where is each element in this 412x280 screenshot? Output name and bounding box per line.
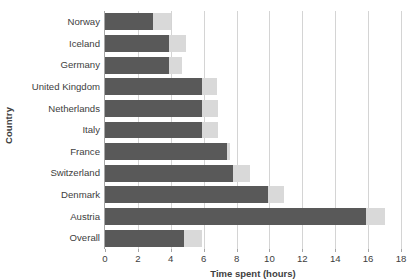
x-tick-mark-18 [401, 249, 402, 252]
category-label-denmark: Denmark [61, 184, 100, 206]
x-tick-label-14: 14 [320, 253, 350, 264]
x-tick-label-12: 12 [287, 253, 317, 264]
bar-row: Denmark [105, 184, 401, 206]
bar-segment-light[interactable] [268, 186, 284, 203]
bar-segment-dark[interactable] [105, 143, 227, 160]
x-tick-label-18: 18 [386, 253, 412, 264]
bar-segment-light[interactable] [227, 143, 230, 160]
bar-segment-light[interactable] [233, 165, 249, 182]
bar-row: Germany [105, 54, 401, 76]
bar-row: United Kingdom [105, 76, 401, 98]
bar-segment-light[interactable] [202, 100, 218, 117]
category-label-switzerland: Switzerland [50, 162, 100, 184]
x-tick-mark-0 [105, 249, 106, 252]
bar-row: Norway [105, 11, 401, 33]
bar-chart: Country NorwayIcelandGermanyUnited Kingd… [0, 0, 412, 280]
bar-segment-dark[interactable] [105, 78, 202, 95]
bar-row: Italy [105, 119, 401, 141]
category-label-germany: Germany [61, 54, 100, 76]
stacked-bar[interactable] [105, 122, 218, 139]
bar-segment-light[interactable] [153, 13, 171, 30]
stacked-bar[interactable] [105, 13, 171, 30]
x-tick-mark-10 [269, 249, 270, 252]
bar-row: Switzerland [105, 162, 401, 184]
gridline-18 [401, 11, 402, 249]
bar-segment-dark[interactable] [105, 122, 202, 139]
bar-row: France [105, 141, 401, 163]
category-label-iceland: Iceland [69, 33, 100, 55]
y-axis-title: Country [0, 0, 18, 250]
bar-segment-light[interactable] [202, 78, 217, 95]
stacked-bar[interactable] [105, 100, 218, 117]
x-tick-mark-16 [368, 249, 369, 252]
stacked-bar[interactable] [105, 78, 217, 95]
x-tick-mark-8 [237, 249, 238, 252]
category-label-united-kingdom: United Kingdom [32, 76, 100, 98]
x-tick-mark-12 [302, 249, 303, 252]
stacked-bar[interactable] [105, 230, 202, 247]
stacked-bar[interactable] [105, 143, 230, 160]
bar-segment-dark[interactable] [105, 230, 184, 247]
x-tick-label-16: 16 [353, 253, 383, 264]
x-tick-mark-14 [335, 249, 336, 252]
bar-segment-light[interactable] [169, 35, 185, 52]
bar-row: Iceland [105, 33, 401, 55]
bar-row: Netherlands [105, 98, 401, 120]
category-label-netherlands: Netherlands [48, 98, 100, 120]
x-tick-mark-4 [171, 249, 172, 252]
category-label-france: France [70, 141, 100, 163]
x-tick-label-4: 4 [156, 253, 186, 264]
category-label-austria: Austria [70, 206, 100, 228]
x-tick-label-10: 10 [254, 253, 284, 264]
bar-segment-dark[interactable] [105, 100, 202, 117]
bar-segment-light[interactable] [202, 122, 218, 139]
bar-segment-light[interactable] [184, 230, 202, 247]
stacked-bar[interactable] [105, 165, 250, 182]
bar-segment-dark[interactable] [105, 165, 233, 182]
bar-segment-light[interactable] [366, 208, 384, 225]
category-label-norway: Norway [67, 11, 100, 33]
bar-row: Austria [105, 206, 401, 228]
stacked-bar[interactable] [105, 208, 385, 225]
bar-row: Overall [105, 227, 401, 249]
x-tick-label-0: 0 [90, 253, 120, 264]
x-axis-title: Time spent (hours) [105, 268, 401, 279]
x-tick-mark-2 [138, 249, 139, 252]
x-axis: 024681012141618 [105, 249, 401, 267]
x-tick-label-6: 6 [189, 253, 219, 264]
bar-segment-dark[interactable] [105, 57, 169, 74]
bar-segment-dark[interactable] [105, 186, 268, 203]
category-label-italy: Italy [82, 119, 100, 141]
stacked-bar[interactable] [105, 35, 186, 52]
x-tick-mark-6 [204, 249, 205, 252]
bar-segment-dark[interactable] [105, 35, 169, 52]
category-label-overall: Overall [70, 227, 100, 249]
x-tick-label-2: 2 [123, 253, 153, 264]
stacked-bar[interactable] [105, 186, 284, 203]
bar-segment-dark[interactable] [105, 208, 366, 225]
x-tick-label-8: 8 [222, 253, 252, 264]
stacked-bar[interactable] [105, 57, 182, 74]
bar-segment-light[interactable] [169, 57, 182, 74]
plot-area: NorwayIcelandGermanyUnited KingdomNether… [105, 11, 401, 249]
bar-segment-dark[interactable] [105, 13, 153, 30]
y-axis-title-label: Country [4, 106, 15, 143]
